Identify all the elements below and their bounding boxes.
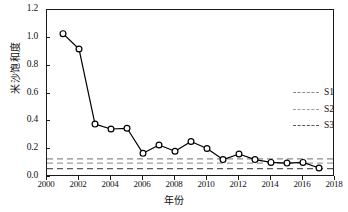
data-point bbox=[172, 148, 178, 154]
x-axis-label: 年份 bbox=[0, 192, 348, 207]
data-point bbox=[156, 142, 162, 148]
y-tick-label: 0.8 bbox=[12, 59, 38, 69]
y-tick-mark bbox=[46, 65, 50, 66]
data-point bbox=[76, 46, 82, 52]
y-tick-label: 0.2 bbox=[12, 142, 38, 152]
legend-label: S3 bbox=[324, 121, 334, 131]
y-tick-mark bbox=[46, 148, 50, 149]
x-tick-label: 2006 bbox=[125, 179, 159, 189]
legend-swatch-icon bbox=[293, 92, 319, 93]
data-line bbox=[63, 34, 319, 168]
y-tick-label: 0.4 bbox=[12, 114, 38, 124]
data-point bbox=[60, 31, 66, 37]
data-point bbox=[108, 126, 114, 132]
data-point bbox=[316, 165, 322, 171]
y-tick-mark bbox=[46, 120, 50, 121]
data-point bbox=[236, 151, 242, 157]
y-tick-label: 1.2 bbox=[12, 3, 38, 13]
data-point bbox=[188, 139, 194, 145]
y-tick-mark bbox=[46, 37, 50, 38]
data-point bbox=[300, 159, 306, 165]
x-tick-label: 2004 bbox=[93, 179, 127, 189]
legend-swatch-icon bbox=[293, 125, 319, 126]
x-tick-label: 2012 bbox=[221, 179, 255, 189]
data-point bbox=[284, 160, 290, 166]
data-point bbox=[220, 157, 226, 163]
x-tick-mark bbox=[238, 176, 239, 180]
plot-svg bbox=[47, 10, 335, 177]
x-tick-mark bbox=[110, 176, 111, 180]
y-tick-mark bbox=[46, 93, 50, 94]
x-tick-mark bbox=[46, 176, 47, 180]
legend-swatch-icon bbox=[293, 109, 319, 110]
x-tick-label: 2002 bbox=[61, 179, 95, 189]
data-point bbox=[204, 146, 210, 152]
y-tick-mark bbox=[46, 9, 50, 10]
x-tick-mark bbox=[206, 176, 207, 180]
x-tick-mark bbox=[78, 176, 79, 180]
y-tick-label: 0.6 bbox=[12, 87, 38, 97]
legend-item-s2: S2 bbox=[293, 105, 334, 115]
data-point bbox=[268, 159, 274, 165]
legend-item-s3: S3 bbox=[293, 121, 334, 131]
y-tick-label: 1.0 bbox=[12, 31, 38, 41]
data-point bbox=[140, 150, 146, 156]
plot-area bbox=[46, 9, 334, 176]
data-point bbox=[252, 157, 258, 163]
legend-label: S1 bbox=[324, 88, 334, 98]
x-tick-mark bbox=[270, 176, 271, 180]
x-tick-mark bbox=[302, 176, 303, 180]
x-tick-mark bbox=[334, 176, 335, 180]
chart-figure: 米沙饱和度 0.00.20.40.60.81.01.2 200020022004… bbox=[0, 0, 348, 212]
x-tick-label: 2014 bbox=[253, 179, 287, 189]
x-tick-label: 2018 bbox=[317, 179, 348, 189]
data-point bbox=[92, 121, 98, 127]
legend-label: S2 bbox=[324, 105, 334, 115]
chart-legend: S1S2S3 bbox=[293, 88, 334, 131]
data-point bbox=[124, 125, 130, 131]
x-tick-label: 2008 bbox=[157, 179, 191, 189]
x-tick-mark bbox=[174, 176, 175, 180]
legend-item-s1: S1 bbox=[293, 88, 334, 98]
x-tick-label: 2016 bbox=[285, 179, 319, 189]
x-tick-label: 2010 bbox=[189, 179, 223, 189]
x-tick-mark bbox=[142, 176, 143, 180]
x-tick-label: 2000 bbox=[29, 179, 63, 189]
